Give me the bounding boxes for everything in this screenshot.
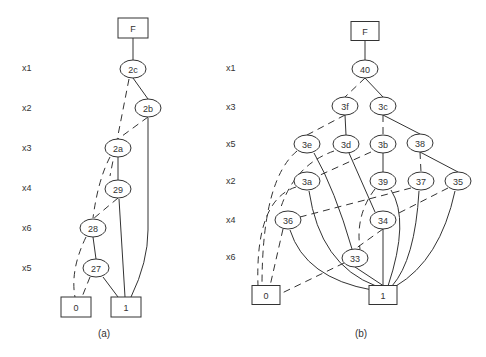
decision-node-3a: 3a	[294, 172, 320, 190]
high-edge-38-35	[420, 152, 458, 172]
node-label: F	[130, 24, 136, 34]
node-label: 2b	[143, 104, 153, 114]
diagram-b: F403f3c3e3d3b383a39373536343301x1x3x5x2x…	[226, 22, 471, 340]
high-edge-3e-33	[314, 153, 352, 249]
decision-node-36: 36	[275, 211, 301, 229]
variable-row-label: x3	[226, 102, 236, 112]
node-label: F	[362, 27, 368, 37]
high-edge-3a-1	[309, 191, 376, 286]
variable-row-label: x5	[22, 263, 32, 273]
high-edge-2c-2b	[133, 78, 148, 99]
node-label: 28	[88, 224, 98, 234]
terminal-node-1: 1	[369, 286, 397, 305]
high-edge-27-1	[103, 277, 118, 297]
node-label: 35	[453, 177, 463, 187]
variable-row-label: x6	[22, 223, 32, 233]
decision-node-33: 33	[342, 249, 368, 267]
high-edge-2b-1	[131, 118, 148, 297]
decision-node-35: 35	[445, 172, 471, 190]
decision-node-40: 40	[352, 60, 378, 78]
decision-node-37: 37	[408, 172, 434, 190]
low-edge-3b-3a	[318, 152, 371, 176]
node-label: 3e	[302, 140, 312, 150]
low-edge-38-37	[420, 152, 421, 172]
low-edge-36-0	[270, 229, 283, 286]
high-edge-40-3c	[365, 78, 383, 97]
terminal-node-1: 1	[111, 297, 141, 317]
decision-node-2c: 2c	[120, 60, 146, 78]
low-edge-29-28	[93, 198, 118, 219]
variable-row-label: x2	[226, 176, 236, 186]
low-edge-2b-2a	[118, 117, 148, 139]
terminal-node-0: 0	[61, 297, 91, 317]
node-label: 0	[73, 303, 78, 313]
low-edge-27-0	[82, 277, 90, 297]
decision-node-2b: 2b	[135, 99, 161, 117]
node-label: 37	[416, 177, 426, 187]
decision-node-2a: 2a	[105, 139, 131, 157]
node-label: 39	[378, 177, 388, 187]
decision-node-3d: 3d	[333, 135, 359, 153]
decision-node-34: 34	[370, 211, 396, 229]
node-label: 27	[91, 264, 101, 274]
diagram-caption: (b)	[355, 328, 367, 339]
diagram-a: F2c2b2a29282701x1x2x3x4x6x5(a)	[22, 18, 161, 339]
decision-node-39: 39	[370, 172, 396, 190]
high-edge-35-1	[396, 191, 455, 286]
node-label: 1	[380, 291, 385, 301]
node-label: 3a	[302, 177, 312, 187]
decision-node-3f: 3f	[332, 97, 358, 115]
low-edge-3a-0	[258, 187, 296, 286]
decision-node-27: 27	[83, 259, 109, 277]
node-label: 1	[123, 303, 128, 313]
nodes: F403f3c3e3d3b383a39373536343301	[252, 22, 471, 305]
node-label: 3f	[341, 102, 349, 112]
decision-node-28: 28	[80, 219, 106, 237]
variable-row-label: x1	[226, 63, 236, 73]
node-label: 36	[283, 216, 293, 226]
node-label: 40	[360, 65, 370, 75]
node-label: 3c	[378, 102, 388, 112]
low-edge-35-34	[393, 188, 448, 216]
high-edge-29-1	[119, 199, 125, 297]
decision-node-29: 29	[105, 180, 131, 198]
bdd-diagram-canvas: F2c2b2a29282701x1x2x3x4x6x5(a) F403f3c3e…	[0, 0, 486, 357]
node-label: 34	[378, 216, 388, 226]
decision-node-3e: 3e	[294, 135, 320, 153]
variable-row-label: x2	[22, 103, 32, 113]
low-edge-37-36	[300, 188, 411, 217]
low-edge-40-3f	[345, 78, 365, 97]
variable-row-label: x6	[226, 252, 236, 262]
high-edge-3c-38	[383, 115, 420, 134]
variable-row-label: x4	[226, 215, 236, 225]
decision-node-38: 38	[407, 134, 433, 152]
node-label: 33	[350, 254, 360, 264]
variable-row-label: x1	[22, 63, 32, 73]
decision-node-3b: 3b	[370, 135, 396, 153]
variable-row-label: x3	[22, 143, 32, 153]
node-label: 3d	[341, 140, 351, 150]
high-edge-28-27	[93, 237, 96, 259]
nodes: F2c2b2a29282701	[61, 18, 161, 317]
low-edge-2c-29	[110, 79, 129, 176]
low-edge-3f-3e	[307, 115, 345, 135]
node-label: 2a	[113, 144, 123, 154]
variable-row-label: x4	[22, 183, 32, 193]
terminal-node-0: 0	[252, 286, 280, 305]
terminal-node-F: F	[351, 22, 379, 41]
node-label: 2c	[128, 65, 138, 75]
terminal-node-F: F	[118, 18, 148, 38]
node-label: 29	[113, 185, 123, 195]
high-edge-39-1	[388, 190, 400, 286]
decision-node-3c: 3c	[370, 97, 396, 115]
high-edge-3f-3d	[345, 115, 346, 135]
node-label: 38	[415, 139, 425, 149]
node-label: 3b	[378, 140, 388, 150]
node-label: 0	[263, 291, 268, 301]
variable-row-label: x5	[226, 139, 236, 149]
diagram-caption: (a)	[98, 328, 110, 339]
